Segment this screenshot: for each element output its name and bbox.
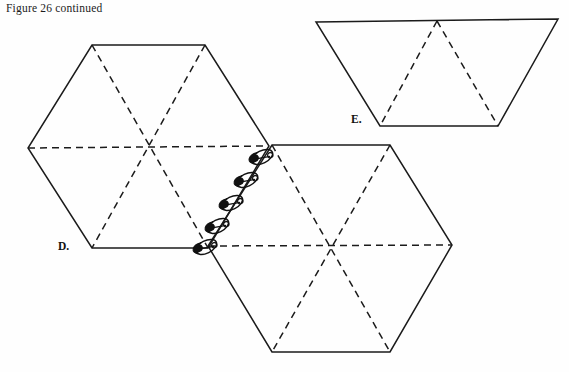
hexagon-lower-outline (208, 145, 452, 352)
fold-line-left (380, 21, 437, 126)
fold-line-diag-b (272, 145, 390, 352)
trapezoid-e-fold-lines (380, 21, 498, 126)
fold-line-diag-a (272, 145, 390, 352)
shape-trapezoid-e (316, 19, 558, 126)
fold-line-horizontal (28, 146, 269, 148)
trapezoid-e-outline (316, 19, 558, 126)
safety-pin (247, 146, 275, 168)
safety-pin (232, 169, 260, 191)
shape-label-e: E. (351, 113, 362, 125)
shape-hexagon-d (28, 45, 269, 248)
figure-page: Figure 26 continued (0, 0, 569, 372)
hexagon-d-fold-lines (28, 45, 269, 248)
shape-label-d: D. (58, 240, 69, 252)
hexagon-lower-fold-lines (208, 145, 452, 352)
safety-pin (191, 236, 219, 258)
shape-hexagon-lower (208, 145, 452, 352)
safety-pins-group (191, 146, 275, 258)
figure-drawing (0, 0, 569, 372)
fold-line-right (437, 21, 498, 126)
fold-line-horizontal (208, 245, 452, 246)
